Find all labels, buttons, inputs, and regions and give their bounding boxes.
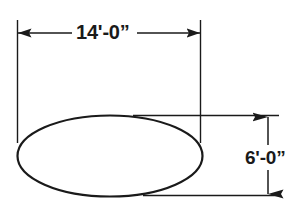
drawing-canvas xyxy=(0,0,299,206)
ellipse-shape xyxy=(18,116,203,197)
width-dimension-label: 14'-0” xyxy=(72,21,134,44)
dimension-drawing: 14'-0” 6'-0” xyxy=(0,0,299,206)
height-dimension-label: 6'-0” xyxy=(243,146,287,170)
